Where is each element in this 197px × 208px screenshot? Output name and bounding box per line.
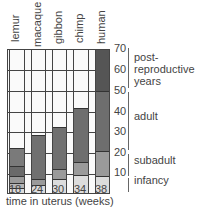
bar-gibbon <box>52 50 67 193</box>
bar-chimp <box>73 50 89 193</box>
xtick-24: 24 <box>27 183 47 195</box>
bracket-subadult <box>128 154 132 176</box>
macaque-adult <box>32 135 45 179</box>
bracket-infancy <box>128 178 132 192</box>
stage-post-line1: post- <box>134 51 195 63</box>
bar-lemur <box>9 50 25 193</box>
human-post-reproductive <box>96 50 109 91</box>
bracket-post-reproductive <box>128 48 132 88</box>
ytick-30: 30 <box>114 125 126 137</box>
species-label-chimp: chimp <box>73 14 85 43</box>
xtick-34: 34 <box>70 183 90 195</box>
bar-macaque <box>31 50 46 193</box>
xtick-38: 38 <box>91 183 111 195</box>
stage-label-adult: adult <box>134 110 158 122</box>
xtick-18: 18 <box>5 183 25 195</box>
chimp-subadult <box>74 162 88 175</box>
ytick-40: 40 <box>114 105 126 117</box>
species-label-human: human <box>95 10 107 44</box>
species-label-gibbon: gibbon <box>52 11 64 44</box>
gibbon-adult <box>53 127 66 169</box>
ytick-10: 10 <box>114 166 126 178</box>
bar-human <box>95 50 110 193</box>
ytick-70: 70 <box>114 42 126 54</box>
lemur-upper <box>10 148 24 166</box>
stage-label-post-reproductive: post- reproductive years <box>134 51 195 87</box>
lemur-adult <box>10 166 24 176</box>
ytick-50: 50 <box>114 84 126 96</box>
ytick-60: 60 <box>114 63 126 75</box>
xtick-30: 30 <box>48 183 68 195</box>
stage-label-subadult: subadult <box>134 154 176 166</box>
species-label-macaque: macaque <box>31 2 43 47</box>
human-adult <box>96 91 109 151</box>
ytick-20: 20 <box>114 146 126 158</box>
stage-label-infancy: infancy <box>134 174 169 186</box>
bracket-adult <box>128 92 132 150</box>
gibbon-subadult <box>53 169 66 179</box>
human-subadult <box>96 151 109 176</box>
species-label-lemur: lemur <box>9 14 21 42</box>
stage-post-line3: years <box>134 75 195 87</box>
chimp-adult <box>74 108 88 162</box>
stage-post-line2: reproductive <box>134 63 195 75</box>
lemur-subadult <box>10 176 24 183</box>
chart-plot-area <box>7 49 110 194</box>
x-axis-title: time in uterus (weeks) <box>6 195 114 207</box>
